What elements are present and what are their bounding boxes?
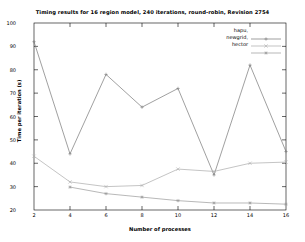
x-tick-label: 12 [204, 213, 224, 218]
legend-item: newgrid, [196, 34, 282, 40]
x-tick-label: 14 [240, 213, 260, 218]
y-axis-label: Time per iteration (s) [16, 56, 22, 166]
chart-title: Timing results for 16 region model, 240 … [0, 9, 305, 15]
data-series-group [32, 40, 287, 206]
series-2 [68, 185, 287, 205]
series-1 [32, 155, 287, 189]
legend-sample [250, 41, 282, 47]
series-line-1 [34, 156, 286, 186]
plot-canvas [34, 23, 286, 210]
x-tick-label: 6 [96, 213, 116, 218]
series-line-0 [34, 42, 286, 175]
y-tick-label: 90 [10, 44, 16, 49]
y-tick-label: 50 [10, 137, 16, 142]
legend-sample [250, 34, 282, 40]
y-tick-label: 60 [10, 114, 16, 119]
x-tick-label: 4 [60, 213, 80, 218]
x-tick-label: 16 [276, 213, 296, 218]
legend-label: hapu, [234, 27, 248, 33]
legend-sample [250, 27, 282, 33]
series-0 [32, 40, 287, 177]
y-tick-label: 80 [10, 67, 16, 72]
x-tick-label: 2 [24, 213, 44, 218]
chart-legend: hapu,newgrid,hector [196, 27, 282, 48]
y-tick-label: 20 [10, 208, 16, 213]
x-axis-label: Number of processes [34, 226, 286, 232]
x-tick-label: 8 [132, 213, 152, 218]
legend-swatch [250, 50, 282, 56]
y-tick-label: 70 [10, 91, 16, 96]
y-tick-label: 100 [6, 21, 16, 26]
y-tick-label: 40 [10, 161, 16, 166]
legend-label: newgrid, [226, 34, 248, 40]
plot-area [34, 23, 286, 210]
legend-item: hapu, [196, 27, 282, 33]
legend-label: hector [232, 41, 248, 47]
y-tick-label: 30 [10, 184, 16, 189]
chart-figure: Timing results for 16 region model, 240 … [0, 0, 305, 242]
legend-item: hector [196, 41, 282, 47]
x-tick-label: 10 [168, 213, 188, 218]
